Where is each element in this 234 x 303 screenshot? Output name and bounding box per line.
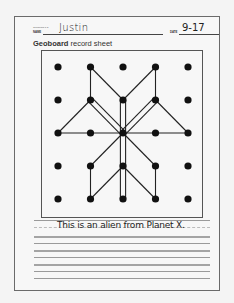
peg-dot — [152, 96, 159, 103]
peg-dot — [152, 195, 159, 202]
rubber-band — [91, 67, 124, 100]
peg-dot — [119, 96, 126, 103]
geoboard-figure — [42, 51, 204, 219]
peg-dot — [54, 63, 61, 70]
title-rest: record sheet — [68, 39, 112, 48]
peg-dot — [54, 195, 61, 202]
name-value: Justin — [59, 22, 88, 33]
peg-dot — [184, 63, 191, 70]
date-underline — [179, 34, 219, 35]
peg-dot — [152, 162, 159, 169]
rule-baseline — [34, 236, 210, 238]
peg-dot — [152, 63, 159, 70]
peg-dot — [87, 129, 94, 136]
peg-dot — [184, 129, 191, 136]
peg-dot — [119, 129, 126, 136]
sheet-code-label: Geoboard 1-5 — [33, 26, 48, 29]
geoboard-record-sheet: Geoboard 1-5 NAME Justin DATE 9-17 Geobo… — [14, 16, 220, 291]
rubber-band — [89, 102, 122, 135]
peg-dot — [184, 195, 191, 202]
peg-dot — [119, 195, 126, 202]
peg-dot — [119, 162, 126, 169]
rubber-band — [58, 100, 91, 133]
peg-dot — [54, 96, 61, 103]
rubber-band — [123, 166, 156, 199]
date-label: DATE — [170, 30, 177, 34]
peg-dot — [54, 162, 61, 169]
geoboard-grid — [41, 50, 203, 218]
rule-line — [34, 271, 210, 272]
rule-baseline — [34, 264, 210, 266]
name-underline — [43, 34, 163, 35]
peg-dot — [54, 129, 61, 136]
rubber-band — [156, 100, 189, 133]
rule-line — [34, 278, 210, 279]
rule-line — [34, 257, 210, 258]
rubber-band — [125, 102, 157, 135]
rubber-band — [91, 166, 124, 199]
name-label: NAME — [33, 30, 41, 34]
rubber-band — [91, 133, 124, 166]
title-bold: Geoboard — [33, 39, 68, 48]
peg-dot — [119, 63, 126, 70]
peg-dot — [87, 195, 94, 202]
peg-dot — [184, 96, 191, 103]
rule-line — [34, 243, 210, 244]
peg-dot — [152, 129, 159, 136]
rule-baseline — [34, 250, 210, 252]
rubber-band — [123, 133, 156, 166]
handwriting-lines: This is an alien from Planet X. — [34, 220, 210, 280]
handwritten-sentence: This is an alien from Planet X. — [57, 220, 185, 230]
rubber-band — [123, 67, 156, 100]
peg-dot — [184, 162, 191, 169]
peg-dot — [87, 63, 94, 70]
peg-dot — [87, 96, 94, 103]
date-value: 9-17 — [182, 22, 205, 33]
peg-dot — [87, 162, 94, 169]
sheet-title: Geoboard record sheet — [33, 39, 112, 48]
